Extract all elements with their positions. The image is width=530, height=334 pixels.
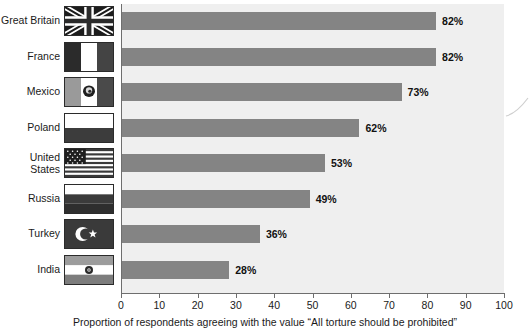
bar-value-label: 28% <box>235 264 256 276</box>
x-axis-caption: Proportion of respondents agreeing with … <box>0 316 530 328</box>
x-tick-mark <box>466 294 467 298</box>
chart-row: Russia 49% <box>0 182 530 216</box>
x-tick-mark <box>427 294 428 298</box>
chart-row: Turkey 36% <box>0 217 530 251</box>
bar-value-label: 53% <box>331 157 352 169</box>
flag-united-states-icon <box>64 148 114 178</box>
x-tick-mark <box>159 294 160 298</box>
category-label: Turkey <box>0 228 60 240</box>
bar-value-label: 73% <box>408 86 429 98</box>
bar <box>122 119 359 137</box>
flag-great-britain-icon <box>64 6 114 36</box>
x-tick-label: 10 <box>153 299 165 311</box>
x-tick-label: 100 <box>495 299 513 311</box>
x-tick-label: 30 <box>230 299 242 311</box>
chart-row: United States <box>0 146 530 180</box>
bar-value-label: 49% <box>316 193 337 205</box>
bar <box>122 48 436 66</box>
x-tick-label: 20 <box>192 299 204 311</box>
flag-france-icon <box>64 42 114 72</box>
category-label: Mexico <box>0 86 60 98</box>
x-tick-mark <box>351 294 352 298</box>
category-label: Poland <box>0 122 60 134</box>
x-tick-label: 70 <box>383 299 395 311</box>
bar <box>122 225 260 243</box>
bar-value-label: 62% <box>365 122 386 134</box>
x-tick-label: 90 <box>460 299 472 311</box>
x-tick-label: 50 <box>307 299 319 311</box>
flag-india-icon <box>64 255 114 285</box>
bar-value-label: 82% <box>442 15 463 27</box>
category-label: Great Britain <box>0 15 60 27</box>
bar <box>122 261 229 279</box>
bar <box>122 190 310 208</box>
x-tick-mark <box>504 294 505 298</box>
x-tick-mark <box>389 294 390 298</box>
bar <box>122 12 436 30</box>
x-tick-mark <box>198 294 199 298</box>
chart-row: India 28% <box>0 253 530 287</box>
bar-chart: Great Britain 82%France 82%Mexico 73%Pol… <box>0 0 530 334</box>
x-tick-label: 60 <box>345 299 357 311</box>
x-tick-mark <box>121 294 122 298</box>
chart-row: Great Britain 82% <box>0 4 530 38</box>
bar <box>122 83 402 101</box>
x-tick-label: 40 <box>268 299 280 311</box>
chart-row: Mexico 73% <box>0 75 530 109</box>
flag-turkey-icon <box>64 219 114 249</box>
x-tick-mark <box>236 294 237 298</box>
x-tick-label: 0 <box>118 299 124 311</box>
chart-row: Poland 62% <box>0 111 530 145</box>
category-label: Russia <box>0 193 60 205</box>
flag-mexico-icon <box>64 77 114 107</box>
category-label: India <box>0 264 60 276</box>
x-tick-mark <box>274 294 275 298</box>
x-tick-label: 80 <box>422 299 434 311</box>
chart-row: France 82% <box>0 40 530 74</box>
bar <box>122 154 325 172</box>
bar-value-label: 82% <box>442 51 463 63</box>
flag-russia-icon <box>64 184 114 214</box>
x-tick-mark <box>313 294 314 298</box>
category-label: France <box>0 51 60 63</box>
category-label: United States <box>0 152 60 175</box>
bar-value-label: 36% <box>266 228 287 240</box>
flag-poland-icon <box>64 113 114 143</box>
